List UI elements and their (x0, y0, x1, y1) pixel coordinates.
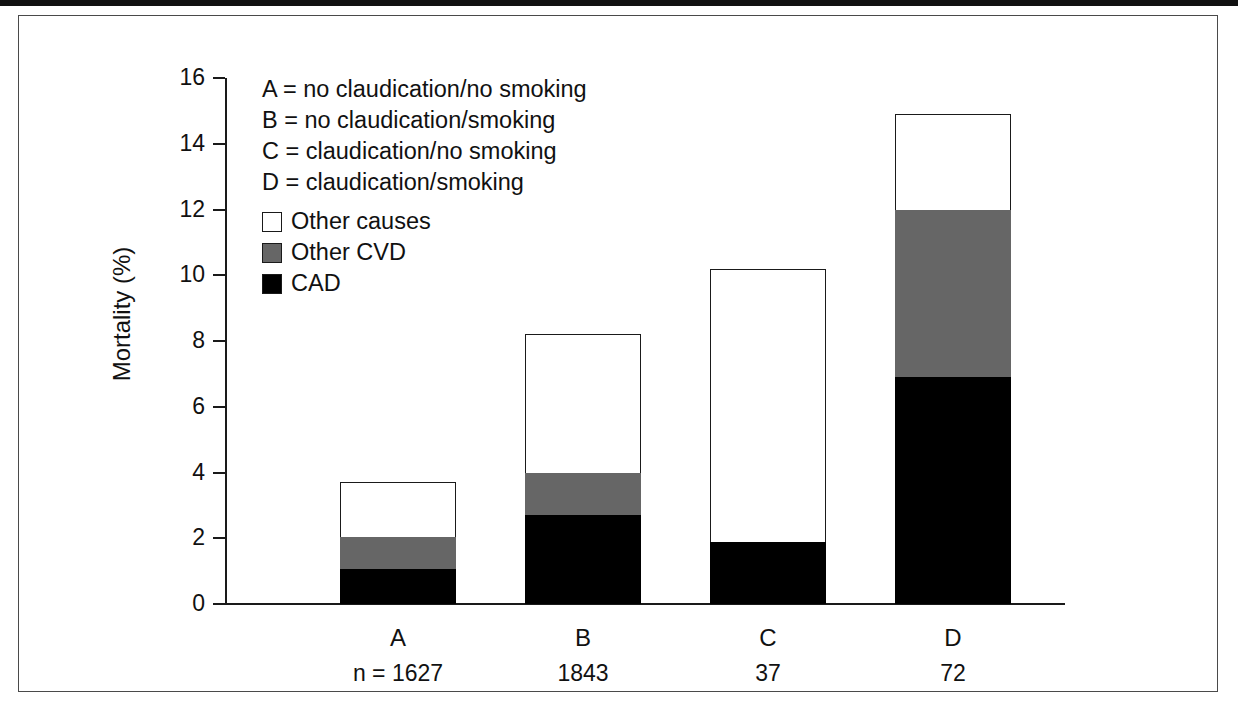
legend-swatch-other-cvd-icon (262, 243, 282, 263)
legend-label-cad: CAD (291, 272, 341, 296)
y-axis-title: Mortality (%) (108, 184, 136, 444)
y-axis-line (225, 78, 227, 605)
annotation-line-a: A = no claudication/no smoking (262, 74, 722, 105)
y-tick-16 (213, 77, 225, 79)
legend: Other causes Other CVD CAD (262, 206, 431, 299)
x-axis-category-label-b: B (525, 624, 641, 652)
legend-item-other-causes: Other causes (262, 206, 431, 237)
annotation-line-b: B = no claudication/smoking (262, 105, 722, 136)
legend-item-cad: CAD (262, 268, 431, 299)
x-axis-category-label-d: D (895, 624, 1011, 652)
annotation-line-c: C = claudication/no smoking (262, 136, 722, 167)
y-tick-2 (213, 537, 225, 539)
y-tick-label-8: 8 (165, 329, 205, 352)
y-tick-label-4: 4 (165, 461, 205, 484)
legend-label-other-cvd: Other CVD (291, 241, 406, 265)
y-tick-label-14: 14 (165, 132, 205, 155)
bar-c-segment-cad (710, 542, 826, 604)
bar-a-segment-other-cvd (340, 537, 456, 570)
legend-item-other-cvd: Other CVD (262, 237, 431, 268)
x-axis-n-label-a: n = 1627 (298, 660, 498, 687)
y-tick-label-6: 6 (165, 395, 205, 418)
bar-b-segment-other-cvd (525, 473, 641, 516)
y-tick-label-12: 12 (165, 198, 205, 221)
y-tick-14 (213, 143, 225, 145)
bar-d-segment-cad (895, 377, 1011, 604)
y-tick-label-16: 16 (165, 66, 205, 89)
y-tick-label-0: 0 (165, 592, 205, 615)
plot-area: Mortality (%) 0246810121416 An = 1627B18… (0, 0, 1238, 710)
x-axis-category-label-a: A (340, 624, 456, 652)
y-tick-12 (213, 209, 225, 211)
annotation-block: A = no claudication/no smoking B = no cl… (262, 74, 722, 198)
legend-swatch-cad-icon (262, 274, 282, 294)
x-axis-n-label-d: 72 (853, 660, 1053, 687)
x-axis-category-label-c: C (710, 624, 826, 652)
annotation-line-d: D = claudication/smoking (262, 167, 722, 198)
figure-page: Mortality (%) 0246810121416 An = 1627B18… (0, 0, 1238, 710)
legend-label-other-causes: Other causes (291, 210, 431, 234)
bar-a-segment-cad (340, 569, 456, 604)
y-tick-10 (213, 274, 225, 276)
legend-swatch-other-causes-icon (262, 212, 282, 232)
bar-b-segment-cad (525, 515, 641, 604)
y-tick-label-2: 2 (165, 526, 205, 549)
y-tick-8 (213, 340, 225, 342)
bar-d-segment-other-cvd (895, 210, 1011, 378)
y-tick-0 (213, 603, 225, 605)
y-tick-label-10: 10 (165, 263, 205, 286)
x-axis-n-label-b: 1843 (483, 660, 683, 687)
x-axis-n-label-c: 37 (668, 660, 868, 687)
y-tick-4 (213, 472, 225, 474)
y-tick-6 (213, 406, 225, 408)
